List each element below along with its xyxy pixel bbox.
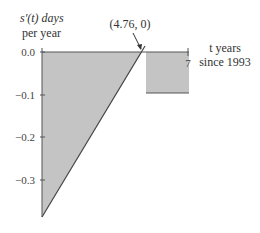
ytick-0: 0.0 — [21, 46, 35, 58]
y-axis-label-line1: s'(t) days — [20, 11, 64, 25]
chart: 0.0 −0.1 −0.2 −0.3 7 s'(t) days per year… — [0, 0, 260, 233]
x-axis-label-line2: since 1993 — [199, 55, 251, 69]
ytick-1: −0.1 — [15, 89, 35, 101]
x-axis-label-line1: t years — [209, 41, 241, 55]
ytick-3: −0.3 — [15, 174, 35, 186]
ytick-2: −0.2 — [15, 131, 35, 143]
annotation-label: (4.76, 0) — [110, 17, 151, 31]
rectangle-shaded-region — [146, 52, 189, 93]
xtick-7: 7 — [185, 57, 191, 69]
y-axis-label-line2: per year — [22, 26, 61, 40]
